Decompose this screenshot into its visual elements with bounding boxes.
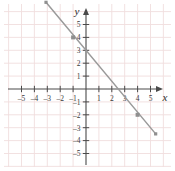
y-tick-label: 5 [77, 20, 81, 29]
y-tick-label: 3 [77, 46, 81, 55]
coordinate-plane-graph: –5–4–3–2–11234554321–1–2–3–4–5 x y [0, 0, 175, 171]
x-tick-label: 2 [110, 94, 114, 103]
x-tick-label: –3 [43, 94, 52, 103]
y-tick-label: 2 [77, 59, 81, 68]
x-tick-label: 1 [97, 94, 101, 103]
y-tick-label: –1 [72, 98, 81, 107]
x-tick-label: –5 [17, 94, 26, 103]
x-tick-label: 4 [136, 94, 140, 103]
y-tick-label: –2 [72, 111, 81, 120]
y-axis-label: y [74, 5, 80, 17]
y-tick-label: –3 [72, 124, 81, 133]
x-tick-label: –4 [30, 94, 39, 103]
gridlines [4, 4, 171, 167]
plot-svg: –5–4–3–2–11234554321–1–2–3–4–5 x y [0, 0, 175, 171]
axes [8, 8, 163, 165]
y-tick-label: –5 [72, 149, 81, 158]
line-endpoint-marker [44, 1, 47, 4]
x-tick-label: –2 [55, 94, 64, 103]
x-tick-label: 5 [149, 94, 153, 103]
plotted-point-marker [136, 113, 140, 117]
y-tick-label: –4 [72, 136, 81, 145]
line-endpoint-marker [154, 132, 157, 135]
plotted-point-marker [71, 35, 75, 39]
x-axis-label: x [162, 91, 168, 103]
y-tick-label: 1 [77, 72, 81, 81]
